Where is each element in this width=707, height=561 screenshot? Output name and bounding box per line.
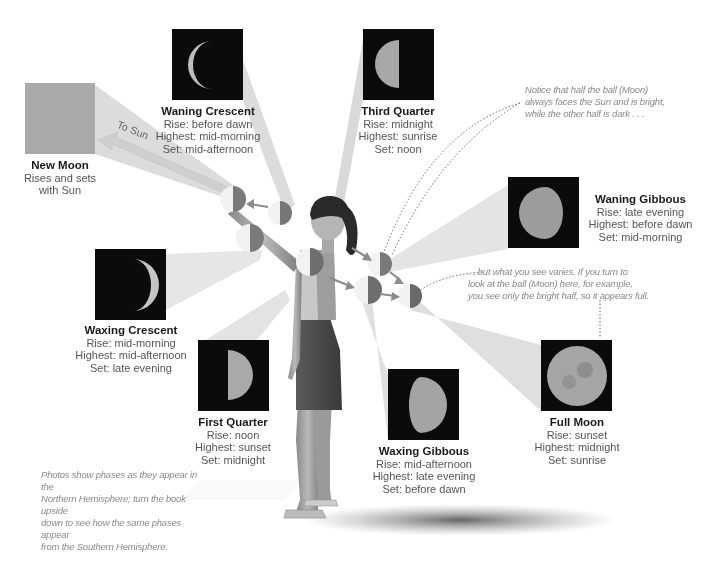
waxing-gibbous-photo <box>388 369 459 440</box>
waxing-crescent-photo <box>95 249 166 320</box>
first-quarter-label: First Quarter Rise: noon Highest: sunset… <box>183 416 283 466</box>
new-moon-label: New Moon Rises and sets with Sun <box>10 159 110 197</box>
third-quarter-label: Third Quarter Rise: midnight Highest: su… <box>348 105 448 155</box>
waxing-crescent-label: Waxing Crescent Rise: mid-morning Highes… <box>70 324 192 374</box>
note-half-bright: Notice that half the ball (Moon) always … <box>525 84 705 120</box>
full-moon-label: Full Moon Rise: sunset Highest: midnight… <box>527 416 627 466</box>
note-what-you-see-varies: . . but what you see varies. If you turn… <box>468 266 707 302</box>
third-quarter-photo <box>363 29 434 100</box>
note-hemisphere: Photos show phases as they appear in the… <box>41 469 211 553</box>
full-moon-photo <box>541 340 612 411</box>
ground-shadow <box>300 504 620 536</box>
waning-crescent-label: Waning Crescent Rise: before dawn Highes… <box>148 105 268 155</box>
waning-gibbous-photo <box>508 177 579 248</box>
first-quarter-photo <box>198 340 269 411</box>
waxing-gibbous-label: Waxing Gibbous Rise: mid-afternoon Highe… <box>364 445 484 495</box>
waning-gibbous-label: Waning Gibbous Rise: late evening Highes… <box>583 193 698 243</box>
new-moon-photo <box>25 83 95 154</box>
waning-crescent-photo <box>172 29 243 100</box>
moon-phases-diagram: New Moon Rises and sets with Sun Waning … <box>0 0 707 561</box>
